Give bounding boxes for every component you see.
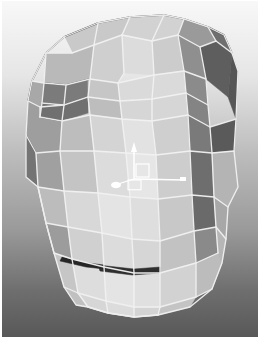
model-face-mouth-center[interactable] [98,193,132,239]
gizmo-z-axis-handle[interactable] [111,182,121,188]
model-face-under-chin-3[interactable] [134,273,160,307]
perspective-viewport[interactable] [2,1,258,337]
model-face-jaw-right-dark[interactable] [190,151,214,197]
model-face-mouth-center-right[interactable] [130,197,160,241]
model-face-nose-center[interactable] [122,119,156,155]
model-face-mid-face-right[interactable] [156,151,192,199]
gizmo-x-axis-handle[interactable] [180,177,186,181]
application-window [0,0,267,347]
model-face-cheek-left-lower-2[interactable] [36,151,64,191]
model-face-mid-face-center[interactable] [126,153,158,199]
model-face-mid-face-center-left[interactable] [94,151,130,197]
model-face-mid-face-left[interactable] [60,151,98,193]
model-face-nose-left[interactable] [90,115,126,153]
model-face-jaw-right-shadow[interactable] [192,195,216,231]
viewport-canvas[interactable] [2,1,258,337]
model-face-nose-right[interactable] [152,115,190,155]
